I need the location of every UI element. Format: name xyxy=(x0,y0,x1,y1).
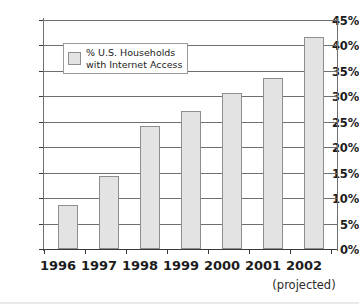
x-tick-mark-0 xyxy=(44,249,45,254)
bar-1996 xyxy=(58,205,78,249)
x-tick-mark-4 xyxy=(208,249,209,254)
bar-2002 xyxy=(304,37,324,249)
bar-1997 xyxy=(99,176,119,249)
legend-label: % U.S. Households with Internet Access xyxy=(86,47,182,70)
x-tick-mark-3 xyxy=(167,249,168,254)
legend-swatch-icon xyxy=(68,52,81,65)
gridline-45 xyxy=(44,20,337,21)
legend-label-line2: with Internet Access xyxy=(86,59,182,71)
gridline-30 xyxy=(44,96,337,97)
x-tick-mark-5 xyxy=(249,249,250,254)
x-tick-mark-6 xyxy=(290,249,291,254)
x-tick-mark-7 xyxy=(331,249,332,254)
right-axis-line xyxy=(337,18,338,251)
x-tick-mark-2 xyxy=(126,249,127,254)
chart-legend: % U.S. Households with Internet Access xyxy=(63,43,188,74)
x-tick-mark-1 xyxy=(85,249,86,254)
x-tick-label-2002: 2002 xyxy=(279,258,329,273)
legend-label-line1: % U.S. Households xyxy=(86,47,182,59)
x-axis-line xyxy=(39,249,337,250)
bar-chart: 45% 40% 35% 30% 25% 20% 15% 10% 5% 0% xyxy=(0,0,359,304)
projected-annotation: (projected) xyxy=(259,278,349,292)
bar-2001 xyxy=(263,78,283,249)
bar-1999 xyxy=(181,111,201,249)
bar-2000 xyxy=(222,93,242,249)
bar-1998 xyxy=(140,126,160,249)
